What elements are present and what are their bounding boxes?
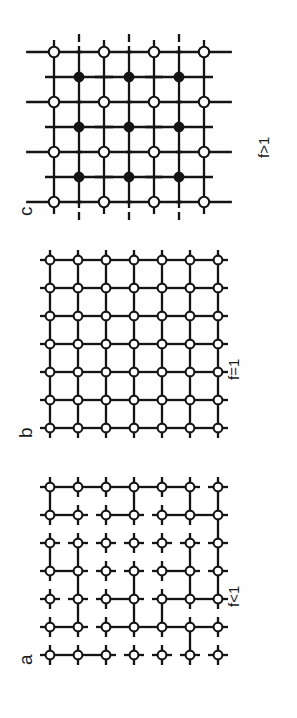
panel-c-letter: c <box>16 207 35 217</box>
lattice-node-open <box>158 651 167 660</box>
lattice-node-open <box>74 483 83 492</box>
lattice-node-open <box>158 396 167 405</box>
lattice-node-open <box>74 396 83 405</box>
lattice-node-open <box>199 47 209 57</box>
lattice-node-open <box>186 312 195 321</box>
lattice-node-open <box>46 368 55 377</box>
lattice-node-open <box>102 539 111 548</box>
lattice-node-open <box>46 651 55 660</box>
lattice-node-filled <box>175 73 184 82</box>
lattice-node-open <box>158 368 167 377</box>
lattice-node-open <box>130 424 139 433</box>
lattice-node-open <box>186 511 195 520</box>
panel-b-wrapper: b f=1 <box>18 242 203 440</box>
lattice-node-open <box>102 312 111 321</box>
lattice-node-open <box>186 651 195 660</box>
lattice-node-open <box>214 284 223 293</box>
lattice-node-open <box>46 539 55 548</box>
lattice-node-open <box>130 340 139 349</box>
lattice-node-filled <box>175 123 184 132</box>
lattice-node-open <box>99 97 109 107</box>
lattice-node-open <box>99 147 109 157</box>
lattice-node-open <box>158 483 167 492</box>
lattice-node-open <box>158 340 167 349</box>
lattice-node-open <box>130 567 139 576</box>
lattice-node-open <box>149 97 159 107</box>
lattice-node-open <box>49 97 59 107</box>
lattice-node-open <box>214 651 223 660</box>
lattice-node-open <box>186 483 195 492</box>
lattice-node-open <box>102 595 111 604</box>
lattice-node-open <box>46 623 55 632</box>
lattice-node-open <box>74 567 83 576</box>
lattice-node-open <box>158 567 167 576</box>
lattice-node-open <box>214 396 223 405</box>
lattice-node-open <box>46 284 55 293</box>
lattice-node-open <box>46 312 55 321</box>
lattice-node-open <box>99 197 109 207</box>
lattice-node-open <box>130 368 139 377</box>
lattice-node-open <box>46 595 55 604</box>
lattice-node-filled <box>75 173 84 182</box>
lattice-node-open <box>186 595 195 604</box>
lattice-node-open <box>186 623 195 632</box>
lattice-node-open <box>46 256 55 265</box>
figure-root: c f>1 b f=1 a f<1 <box>0 0 297 718</box>
lattice-node-open <box>74 595 83 604</box>
lattice-node-open <box>149 147 159 157</box>
lattice-node-open <box>74 651 83 660</box>
lattice-node-open <box>74 312 83 321</box>
lattice-node-open <box>74 424 83 433</box>
lattice-node-open <box>102 511 111 520</box>
lattice-node-open <box>158 312 167 321</box>
lattice-node-open <box>130 651 139 660</box>
lattice-node-open <box>158 256 167 265</box>
panel-a-lattice <box>40 469 220 667</box>
lattice-node-open <box>102 567 111 576</box>
lattice-node-open <box>130 511 139 520</box>
lattice-node-open <box>46 511 55 520</box>
lattice-node-open <box>158 595 167 604</box>
lattice-node-open <box>149 47 159 57</box>
panel-a-wrapper: a f<1 <box>18 469 203 667</box>
lattice-node-open <box>214 623 223 632</box>
panel-b: b f=1 <box>18 242 203 440</box>
lattice-node-open <box>186 567 195 576</box>
lattice-node-open <box>130 312 139 321</box>
lattice-node-open <box>214 368 223 377</box>
lattice-node-open <box>74 256 83 265</box>
lattice-node-open <box>214 312 223 321</box>
lattice-node-open <box>158 511 167 520</box>
lattice-node-open <box>74 539 83 548</box>
panel-c-caption: f>1 <box>256 137 271 158</box>
lattice-node-filled <box>125 123 134 132</box>
lattice-node-open <box>186 368 195 377</box>
lattice-node-open <box>130 396 139 405</box>
lattice-node-open <box>199 197 209 207</box>
lattice-node-open <box>130 595 139 604</box>
lattice-node-open <box>102 483 111 492</box>
lattice-node-filled <box>125 73 134 82</box>
lattice-node-open <box>130 483 139 492</box>
lattice-node-open <box>46 424 55 433</box>
lattice-node-open <box>46 567 55 576</box>
panel-a: a f<1 <box>18 469 203 667</box>
lattice-node-open <box>102 651 111 660</box>
lattice-node-open <box>102 284 111 293</box>
lattice-node-open <box>158 284 167 293</box>
lattice-node-open <box>46 483 55 492</box>
lattice-node-open <box>46 396 55 405</box>
lattice-node-open <box>199 147 209 157</box>
lattice-node-open <box>130 284 139 293</box>
lattice-node-open <box>214 483 223 492</box>
lattice-node-filled <box>75 73 84 82</box>
panel-b-lattice <box>40 242 220 440</box>
lattice-node-open <box>186 539 195 548</box>
lattice-node-open <box>46 340 55 349</box>
lattice-node-open <box>214 539 223 548</box>
lattice-node-open <box>214 511 223 520</box>
lattice-node-open <box>214 595 223 604</box>
lattice-node-open <box>102 623 111 632</box>
panel-c-wrapper: c f>1 <box>18 20 233 218</box>
panel-b-caption: f=1 <box>226 359 241 380</box>
